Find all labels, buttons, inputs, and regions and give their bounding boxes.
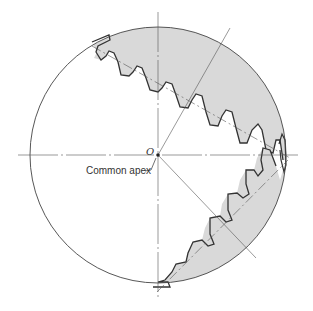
- common-apex-point: [156, 153, 160, 157]
- lower-gear-axis: [157, 160, 288, 292]
- common-apex-label: Common apex: [86, 165, 151, 176]
- upper-gear: [92, 20, 292, 160]
- origin-label: O: [146, 146, 154, 157]
- bevel-gear-diagram: [0, 0, 313, 311]
